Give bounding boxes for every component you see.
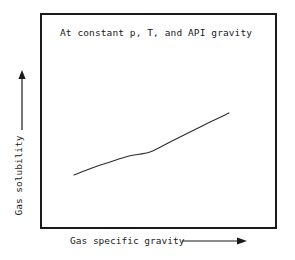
x-axis-group: Gas specific gravity xyxy=(40,232,280,256)
y-axis-group: Gas solubility xyxy=(0,60,36,220)
arrow-right-icon xyxy=(182,233,248,249)
x-axis-label: Gas specific gravity xyxy=(70,235,184,246)
arrow-up-icon xyxy=(14,68,30,130)
chart-title: At constant p, T, and API gravity xyxy=(60,27,252,38)
y-axis-label: Gas solubility xyxy=(13,133,24,219)
chart-figure: At constant p, T, and API gravity Gas so… xyxy=(0,0,295,260)
plot-frame xyxy=(40,13,277,229)
